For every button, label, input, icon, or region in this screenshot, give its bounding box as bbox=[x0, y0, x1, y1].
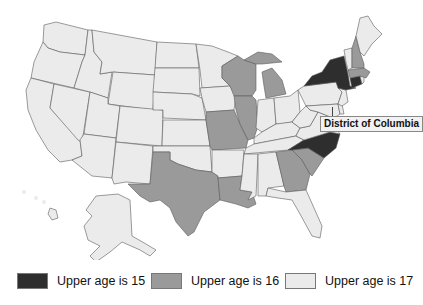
state-massachusetts bbox=[348, 68, 370, 78]
state-michigan-lower bbox=[262, 68, 286, 98]
state-arkansas bbox=[212, 150, 244, 178]
state-wyoming bbox=[108, 72, 155, 110]
legend-label-age17: Upper age is 17 bbox=[325, 274, 413, 288]
legend-label-age16: Upper age is 16 bbox=[191, 274, 279, 288]
legend-label-age15: Upper age is 15 bbox=[57, 274, 145, 288]
state-michigan-upper bbox=[244, 52, 282, 64]
state-hawaii bbox=[48, 208, 58, 220]
legend: Upper age is 15 Upper age is 16 Upper ag… bbox=[17, 272, 417, 290]
state-alaska bbox=[84, 194, 156, 260]
state-iowa bbox=[200, 86, 236, 112]
state-colorado bbox=[116, 106, 163, 146]
state-florida bbox=[266, 188, 322, 238]
state-new-mexico bbox=[112, 142, 153, 184]
legend-swatch-age17 bbox=[285, 273, 316, 289]
legend-swatch-age16 bbox=[151, 273, 182, 289]
state-hawaii-islands bbox=[34, 196, 38, 200]
dc-callout-label: District of Columbia bbox=[320, 116, 423, 132]
legend-item-age15: Upper age is 15 bbox=[17, 272, 145, 290]
state-montana bbox=[92, 30, 157, 75]
state-south-dakota bbox=[153, 68, 200, 96]
state-hawaii-islands bbox=[22, 190, 26, 194]
legend-item-age16: Upper age is 16 bbox=[151, 272, 279, 290]
legend-item-age17: Upper age is 17 bbox=[285, 272, 413, 290]
state-hawaii-islands bbox=[42, 200, 46, 204]
state-maine bbox=[356, 16, 382, 56]
state-kansas bbox=[162, 120, 210, 146]
state-north-dakota bbox=[155, 42, 199, 68]
legend-swatch-age15 bbox=[17, 273, 48, 289]
